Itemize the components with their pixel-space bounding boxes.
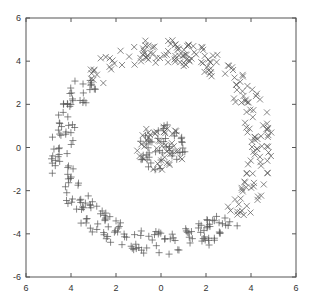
y-tick-label: -2: [13, 186, 21, 196]
x-tick-label: 2: [113, 283, 118, 293]
x-axis-tick-labels: 6420246: [23, 283, 298, 293]
x-tick-label: 4: [68, 283, 73, 293]
y-tick-label: -6: [13, 272, 21, 282]
scatter-chart: 6420246 6420-2-4-6: [0, 0, 315, 306]
series-x-markers: [88, 37, 274, 218]
y-tick-label: 0: [16, 143, 21, 153]
y-tick-label: 4: [16, 56, 21, 66]
y-axis-tick-labels: 6420-2-4-6: [13, 13, 21, 282]
x-tick-label: 2: [203, 283, 208, 293]
x-tick-label: 6: [23, 283, 28, 293]
y-tick-label: -4: [13, 229, 21, 239]
y-tick-label: 6: [16, 13, 21, 23]
x-tick-label: 0: [158, 283, 163, 293]
series-plus-markers: [48, 77, 241, 258]
x-tick-label: 4: [248, 283, 253, 293]
x-tick-label: 6: [293, 283, 298, 293]
y-tick-label: 2: [16, 99, 21, 109]
